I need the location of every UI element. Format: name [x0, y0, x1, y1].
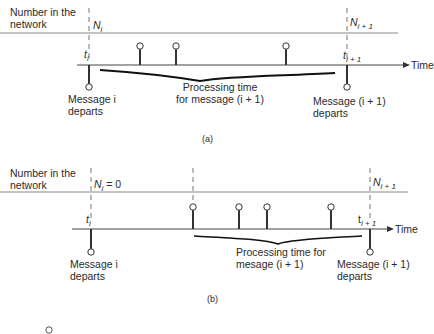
- n-i-label-b: Ni = 0: [94, 178, 121, 195]
- departure-label-i1-a: Message (i + 1) departs: [313, 95, 386, 119]
- time-arrow-icon: [387, 226, 394, 232]
- arrival-stems-a: [137, 43, 289, 65]
- departure-label-i-b: Message i departs: [70, 258, 118, 282]
- arrival-stems-b: [190, 204, 334, 229]
- time-label-a: Time: [411, 59, 434, 71]
- caption-a: (a): [202, 133, 213, 145]
- time-arrow-icon: [403, 62, 410, 68]
- row-label-b: Number in the network: [10, 167, 76, 191]
- departure-stems-b: [88, 229, 373, 255]
- processing-label-b: Processing time for mesage (i + 1): [236, 246, 326, 270]
- row-label-a: Number in the network: [10, 6, 76, 30]
- t-i-label-b: ti: [86, 213, 91, 230]
- t-i1-label-a: ti + 1: [343, 49, 361, 66]
- arrival-circle-icon: [46, 327, 52, 333]
- processing-label-a: Processing time for message (i + 1): [170, 81, 270, 105]
- n-i1-label-a: Ni + 1: [350, 16, 373, 33]
- departure-label-i1-b: Message (i + 1) departs: [337, 258, 410, 282]
- processing-brace-b: [194, 236, 362, 244]
- processing-brace-a: [100, 70, 335, 81]
- n-i1-label-b: Ni + 1: [373, 176, 396, 193]
- t-i-label-a: ti: [84, 48, 89, 65]
- caption-b: (b): [207, 293, 218, 305]
- departure-label-i-a: Message i departs: [68, 93, 116, 117]
- n-i-label-a: Ni: [93, 19, 102, 36]
- time-label-b: Time: [395, 223, 418, 235]
- t-i1-label-b: ti + 1: [358, 213, 376, 230]
